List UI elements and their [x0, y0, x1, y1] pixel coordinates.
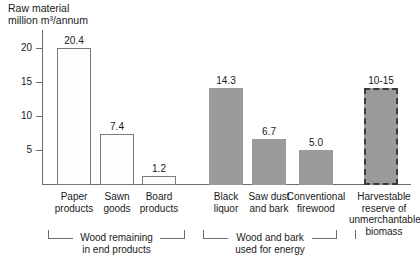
bar-value-black-liquor: 14.3 — [206, 75, 246, 86]
bar-board-products[interactable] — [142, 176, 176, 185]
bar-label-harvestable-reserve: Harvestable reserve of unmerchantable bi… — [349, 191, 419, 237]
group-label-line: Wood and bark — [203, 232, 337, 244]
bar-harvestable-reserve[interactable] — [364, 88, 398, 185]
y-tick-label-5: 5 — [6, 144, 32, 155]
group-label-line: in end products — [48, 244, 185, 256]
group-label-line: used for energy — [203, 244, 337, 256]
bar-value-conventional-firewood: 5.0 — [296, 137, 336, 148]
y-tick-label-20: 20 — [6, 42, 32, 53]
bar-label-line: biomass — [349, 226, 419, 238]
group-bracket-harvestable — [355, 230, 356, 240]
bar-black-liquor[interactable] — [209, 88, 243, 185]
bar-value-paper-products: 20.4 — [54, 35, 94, 46]
bar-label-board-products: Board products — [133, 191, 185, 214]
bar-saw-dust-and-bark[interactable] — [252, 139, 286, 185]
y-tick-5 — [36, 150, 42, 151]
bar-value-board-products: 1.2 — [139, 163, 179, 174]
bar-conventional-firewood[interactable] — [299, 150, 333, 185]
y-tick-20 — [36, 48, 42, 49]
bar-label-line: firewood — [283, 203, 349, 215]
y-tick-label-15: 15 — [6, 76, 32, 87]
bar-value-harvestable-reserve: 10-15 — [361, 75, 401, 86]
y-tick-15 — [36, 82, 42, 83]
bar-label-line: unmerchantable — [349, 214, 419, 226]
y-tick-label-10: 10 — [6, 110, 32, 121]
bar-sawn-goods[interactable] — [100, 134, 134, 185]
group-label-line: Wood remaining — [48, 232, 185, 244]
bar-label-line: Board — [133, 191, 185, 203]
y-axis — [42, 30, 43, 185]
group-label-wood-and-bark: Wood and bark used for energy — [203, 232, 337, 255]
bar-label-line: Conventional — [283, 191, 349, 203]
bar-label-line: Harvestable — [349, 191, 419, 203]
bar-paper-products[interactable] — [57, 48, 91, 185]
chart-subtitle: million m³/annum — [8, 14, 88, 27]
bar-value-sawn-goods: 7.4 — [97, 121, 137, 132]
group-label-wood-remaining: Wood remaining in end products — [48, 232, 185, 255]
chart-title: Raw material — [8, 2, 69, 15]
bar-label-line: reserve of — [349, 203, 419, 215]
bar-chart: Raw material million m³/annum 20 15 10 5… — [0, 0, 420, 265]
y-tick-10 — [36, 116, 42, 117]
bar-label-line: products — [133, 203, 185, 215]
bar-value-saw-dust-and-bark: 6.7 — [249, 126, 289, 137]
bar-label-conventional-firewood: Conventional firewood — [283, 191, 349, 214]
